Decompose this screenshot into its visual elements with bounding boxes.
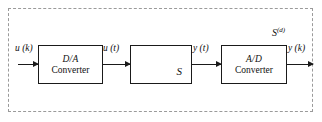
block-plant-symbol: S <box>177 65 183 77</box>
arrow-plant-to-ad <box>192 64 221 65</box>
block-ad-converter-line1: A/D <box>246 54 262 65</box>
block-ad-converter-line2: Converter <box>235 65 273 76</box>
arrow-input-to-da <box>18 64 38 65</box>
signal-label-output-discrete: y (k) <box>288 43 305 53</box>
arrow-da-to-plant <box>103 64 130 65</box>
arrow-ad-to-output <box>287 64 313 65</box>
block-da-converter-line2: Converter <box>52 65 90 76</box>
block-da-converter: D/A Converter <box>38 45 103 84</box>
block-plant: S <box>130 45 192 84</box>
system-boundary-label: S(d) <box>272 26 285 38</box>
block-ad-converter: A/D Converter <box>221 45 287 84</box>
system-boundary-label-superscript: (d) <box>277 26 285 34</box>
signal-label-input-continuous: u (t) <box>103 43 119 53</box>
block-diagram: S(d) u (k) D/A Converter u (t) S y (t) A… <box>0 0 322 122</box>
signal-label-output-continuous: y (t) <box>193 43 209 53</box>
block-da-converter-line1: D/A <box>63 54 79 65</box>
signal-label-input-discrete: u (k) <box>15 43 33 53</box>
